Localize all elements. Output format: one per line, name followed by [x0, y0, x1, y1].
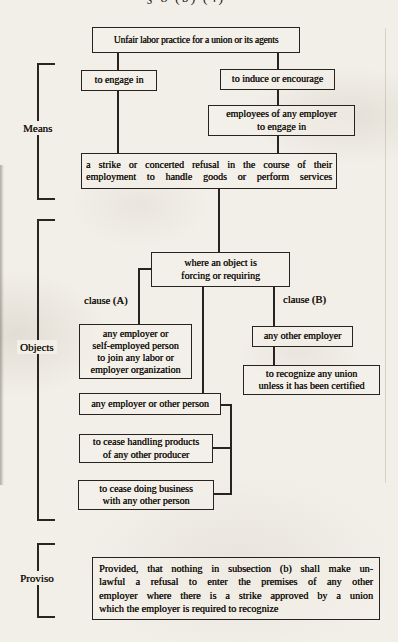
means-bracket-tick-bottom: [37, 198, 55, 200]
connector-right-chain: [230, 404, 232, 495]
strike-box: a strike or concerted refusal in the cou…: [81, 153, 337, 189]
connector-strike-where: [218, 189, 220, 252]
connector-stub-cease-business: [214, 493, 232, 495]
proviso-bracket-tick-top: [37, 543, 55, 545]
scanned-diagram-page: § 8 (b) (4) Means Objects Proviso Unfair…: [0, 0, 398, 642]
connector-where-clauseA-stub: [138, 268, 151, 270]
proviso-bracket-tick-bottom: [37, 616, 55, 618]
engage-box: to engage in: [81, 70, 157, 91]
connector-where-employer-person: [202, 287, 204, 393]
connector-clauseA-down: [138, 268, 140, 324]
connector-where-clauseB: [273, 287, 275, 326]
proviso-box: Provided, that nothing in subsection (b)…: [92, 557, 380, 620]
join-organization-box: any employer orself-employed personto jo…: [79, 324, 192, 379]
cease-business-box: to cease doing businesswith any other pe…: [78, 480, 214, 510]
page-header-fragment: § 8 (b) (4): [146, 0, 225, 6]
connector-engage-strike: [117, 91, 119, 153]
cease-handling-box: to cease handling productsof any other p…: [79, 434, 213, 463]
induce-box: to induce or encourage: [220, 69, 335, 90]
connector-induce-employees: [277, 90, 279, 105]
employer-or-person-box: any employer or other person: [79, 393, 221, 415]
objects-bracket-tick-bottom: [37, 519, 55, 521]
means-label: Means: [20, 121, 55, 135]
connector-root-engage: [117, 53, 119, 70]
connector-stub-cease-handling: [213, 447, 232, 449]
objects-bracket-tick-top: [37, 219, 55, 221]
proviso-label: Proviso: [17, 571, 57, 585]
objects-label: Objects: [17, 340, 57, 354]
scan-edge-line: [385, 28, 386, 483]
scan-gutter-shadow: [0, 165, 4, 485]
employees-box: employees of any employerto engage in: [208, 105, 355, 136]
recognize-union-box: to recognize any unionunless it has been…: [243, 365, 380, 395]
means-bracket-tick-top: [37, 63, 55, 65]
connector-stub-employer-person: [221, 404, 232, 406]
where-object-box: where an object isforcing or requiring: [151, 252, 290, 287]
any-other-employer-box: any other employer: [252, 326, 353, 347]
connector-root-induce: [277, 53, 279, 69]
clause-a-label: clause (A): [84, 295, 127, 306]
connector-employer-recognize: [273, 347, 275, 365]
root-box: Unfair labor practice for a union or its…: [92, 27, 300, 53]
clause-b-label: clause (B): [283, 294, 326, 305]
objects-bracket-line: [37, 219, 39, 521]
connector-employees-strike: [277, 136, 279, 153]
